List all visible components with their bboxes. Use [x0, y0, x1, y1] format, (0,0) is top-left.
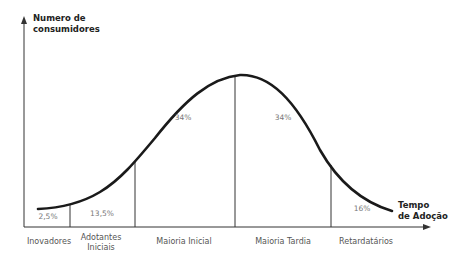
label-maioria-inicial: Maioria Inicial: [156, 237, 211, 247]
y-axis-title: Numero de consumidores: [33, 13, 100, 35]
label-maioria-tardia: Maioria Tardia: [255, 237, 311, 247]
label-adotantes-line2: Iniciais: [81, 243, 122, 253]
y-axis-title-line1: Numero de: [33, 13, 100, 24]
label-adotantes-line1: Adotantes: [81, 233, 122, 243]
pct-retardatarios: 16%: [354, 204, 371, 213]
x-axis-title-line1: Tempo: [398, 200, 448, 211]
y-axis-title-line2: consumidores: [33, 24, 100, 35]
pct-maioria-tardia: 34%: [275, 113, 292, 122]
label-retardatarios: Retardatários: [339, 237, 393, 247]
pct-adotantes: 13,5%: [90, 209, 114, 218]
label-retardatarios-text: Retardatários: [339, 237, 393, 247]
adoption-curve-diagram: [0, 0, 461, 259]
label-maioria-inicial-text: Maioria Inicial: [156, 237, 211, 247]
x-axis-title-line2: de Adoção: [398, 211, 448, 222]
label-adotantes-iniciais: Adotantes Iniciais: [81, 233, 122, 253]
pct-maioria-inicial: 34%: [175, 113, 192, 122]
label-inovadores-text: Inovadores: [27, 237, 71, 247]
y-axis-arrow-icon: [21, 16, 27, 24]
pct-inovadores: 2,5%: [38, 212, 57, 221]
bell-curve: [38, 75, 392, 211]
label-inovadores: Inovadores: [27, 237, 71, 247]
x-axis-arrow-icon: [423, 224, 431, 230]
x-axis-title: Tempo de Adoção: [398, 200, 448, 222]
label-maioria-tardia-text: Maioria Tardia: [255, 237, 311, 247]
